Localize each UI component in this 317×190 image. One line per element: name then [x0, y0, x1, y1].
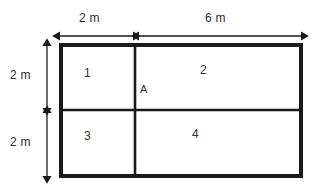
- left-upper-dimension-label: 2 m: [10, 69, 31, 81]
- point-label-a: A: [140, 84, 147, 95]
- region-label-3: 3: [84, 130, 91, 142]
- region-label-4: 4: [192, 128, 199, 140]
- top-right-dimension-label: 6 m: [205, 12, 226, 24]
- region-label-1: 1: [84, 67, 91, 79]
- top-left-dimension-label: 2 m: [79, 12, 100, 24]
- left-lower-dimension-label: 2 m: [10, 136, 31, 148]
- diagram-canvas: 2 m 6 m 2 m 2 m 1 2 3 4 A: [0, 0, 317, 190]
- region-label-2: 2: [200, 64, 207, 76]
- diagram-graphics: [0, 0, 317, 190]
